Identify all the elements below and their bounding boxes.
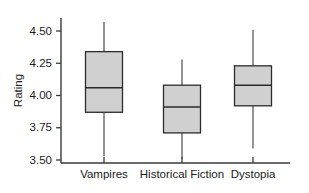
x-category-label: Historical Fiction [140, 168, 224, 180]
y-tick-label: 4.25 [30, 57, 52, 69]
box-body [164, 85, 201, 133]
x-category-label: Vampires [80, 168, 128, 180]
boxplot-chart: 3.503.754.004.254.50RatingVampiresHistor… [0, 0, 309, 193]
box-body [86, 52, 123, 113]
plot-area: 3.503.754.004.254.50RatingVampiresHistor… [0, 0, 309, 193]
y-tick-label: 4.50 [30, 25, 52, 37]
x-category-label: Dystopia [231, 168, 276, 180]
y-tick-label: 3.75 [30, 121, 52, 133]
y-tick-label: 3.50 [30, 154, 52, 166]
y-tick-label: 4.00 [30, 89, 52, 101]
y-axis-title: Rating [12, 74, 24, 107]
